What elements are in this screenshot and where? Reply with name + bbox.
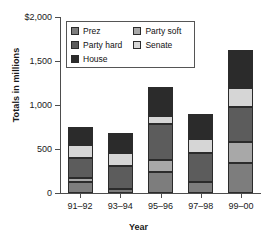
legend-entry[interactable]: Senate <box>133 39 190 51</box>
bar-segment[interactable] <box>228 142 253 163</box>
legend-swatch <box>133 27 141 35</box>
x-tick-label: 99–00 <box>228 201 253 211</box>
legend-label: Prez <box>83 27 100 36</box>
bar-segment[interactable] <box>148 87 173 116</box>
bar[interactable] <box>148 87 173 193</box>
x-tick-label: 97–98 <box>188 201 213 211</box>
bar-segment[interactable] <box>68 182 93 193</box>
bar[interactable] <box>108 133 133 193</box>
bar-segment[interactable] <box>68 127 93 145</box>
y-axis-title: Totals in millions <box>11 25 21 145</box>
bar[interactable] <box>68 127 93 193</box>
bar-segment[interactable] <box>108 166 133 190</box>
bar-segment[interactable] <box>188 114 213 140</box>
legend-entry[interactable]: House <box>71 53 131 65</box>
x-tick <box>161 193 162 198</box>
legend-swatch <box>71 55 79 63</box>
y-tick <box>55 17 60 18</box>
bar-segment[interactable] <box>108 133 133 154</box>
legend-label: House <box>83 55 108 64</box>
y-tick-label: 1,000 <box>29 100 52 110</box>
chart-legend: PrezParty hardHouse Party softSenate <box>66 21 195 68</box>
bar-segment[interactable] <box>108 153 133 165</box>
bar-segment[interactable] <box>228 107 253 142</box>
legend-swatch <box>71 27 79 35</box>
bar-segment[interactable] <box>228 50 253 88</box>
x-tick <box>80 193 81 198</box>
bar-segment[interactable] <box>68 178 93 181</box>
y-tick-label: 500 <box>37 144 52 154</box>
bar[interactable] <box>228 50 253 193</box>
bar[interactable] <box>188 114 213 193</box>
x-tick-label: 95–96 <box>148 201 173 211</box>
bar-segment[interactable] <box>68 158 93 179</box>
legend-label: Senate <box>145 41 172 50</box>
bar-segment[interactable] <box>148 160 173 172</box>
bar-segment[interactable] <box>228 163 253 193</box>
x-tick <box>241 193 242 198</box>
bar-segment[interactable] <box>188 153 213 182</box>
x-tick <box>201 193 202 198</box>
y-tick <box>55 149 60 150</box>
bar-segment[interactable] <box>148 172 173 193</box>
bar-segment[interactable] <box>148 124 173 160</box>
legend-label: Party hard <box>83 41 122 50</box>
bar-segment[interactable] <box>188 139 213 153</box>
y-axis-line <box>60 17 61 193</box>
x-tick <box>120 193 121 198</box>
y-tick <box>55 105 60 106</box>
legend-column-left: PrezParty hardHouse <box>71 25 131 65</box>
y-tick-label: $2,000 <box>24 12 52 22</box>
legend-swatch <box>71 41 79 49</box>
bar-segment[interactable] <box>188 182 213 193</box>
legend-entry[interactable]: Party hard <box>71 39 131 51</box>
legend-entry[interactable]: Party soft <box>133 25 190 37</box>
legend-column-right: Party softSenate <box>133 25 190 65</box>
bar-segment[interactable] <box>148 116 173 124</box>
legend-label: Party soft <box>145 27 181 36</box>
legend-entry[interactable]: Prez <box>71 25 131 37</box>
bar-segment[interactable] <box>108 189 133 193</box>
legend-swatch <box>133 41 141 49</box>
x-axis-title: Year <box>0 222 277 232</box>
y-tick-label: 1,500 <box>29 56 52 66</box>
x-tick-label: 93–94 <box>108 201 133 211</box>
y-tick <box>55 61 60 62</box>
y-tick-label: 0 <box>47 188 52 198</box>
bar-segment[interactable] <box>228 88 253 106</box>
bar-segment[interactable] <box>68 145 93 158</box>
x-tick-label: 91–92 <box>68 201 93 211</box>
y-tick <box>55 193 60 194</box>
stacked-bar-chart: Totals in millions 05001,0001,500$2,000 … <box>0 0 277 240</box>
